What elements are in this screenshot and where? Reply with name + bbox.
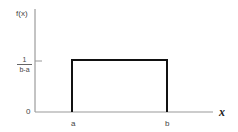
fraction-numerator: 1 xyxy=(16,56,33,64)
y-tick-label-fraction: 1 b-a xyxy=(16,56,33,73)
y-axis-label: f(x) xyxy=(16,10,28,18)
y-tick-label-zero: 0 xyxy=(26,108,30,116)
uniform-pdf-chart xyxy=(0,0,238,132)
x-tick-label-a: a xyxy=(71,120,75,128)
fraction-denominator: b-a xyxy=(16,65,33,73)
x-tick-label-b: b xyxy=(165,120,169,128)
x-axis-label: x xyxy=(219,106,225,118)
pdf-curve xyxy=(72,60,167,112)
